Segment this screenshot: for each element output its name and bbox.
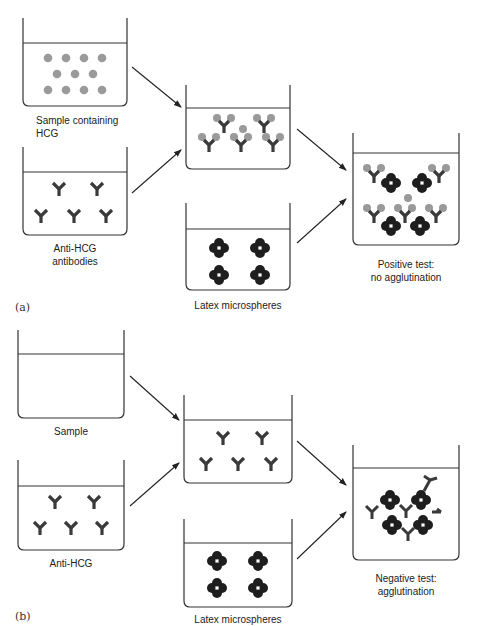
label-line-2: antibodies [23,255,127,268]
beaker-positive-result [353,133,459,245]
label-line-2: no agglutination [350,271,462,284]
label-line-2: HCG [36,127,118,140]
label-latex-microspheres-a: Latex microspheres [176,299,300,312]
beaker-sample-hcg [23,18,127,106]
label-line-1: Sample containing [36,114,118,127]
label-anti-hcg-antibodies: Anti-HCG antibodies [23,242,127,268]
label-sample-containing-hcg: Sample containing HCG [36,114,118,140]
part-label-a: (a) [15,301,30,314]
beaker-latex-microspheres-b [184,519,292,607]
beaker-latex-microspheres-a [186,203,290,290]
beaker-mixture-a [186,85,290,169]
label-line-2: agglutination [350,585,462,598]
part-label-b: (b) [15,610,31,623]
label-negative-test: Negative test: agglutination [350,572,462,598]
beaker-sample [18,330,124,418]
beaker-mixture-b [184,395,292,483]
diagram-canvas [0,0,480,626]
hcg-molecules [44,54,107,95]
label-anti-hcg: Anti-HCG [18,557,124,570]
label-latex-microspheres-b: Latex microspheres [176,613,300,626]
label-line-1: Anti-HCG [23,242,127,255]
label-line-1: Negative test: [350,572,462,585]
beaker-anti-hcg-antibodies [23,147,127,235]
beaker-negative-result [353,445,459,560]
label-line-1: Positive test: [350,258,462,271]
beaker-anti-hcg [18,460,124,550]
label-sample: Sample [18,425,124,438]
label-positive-test: Positive test: no agglutination [350,258,462,284]
arrows-panel-a [132,67,346,243]
